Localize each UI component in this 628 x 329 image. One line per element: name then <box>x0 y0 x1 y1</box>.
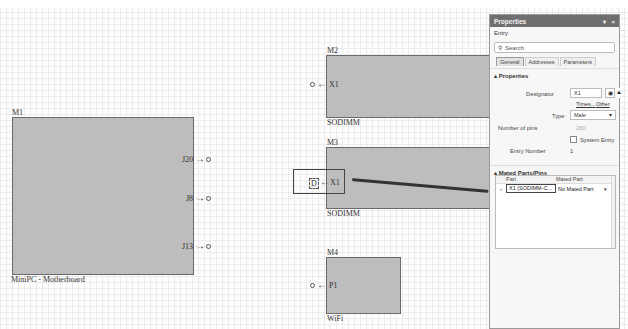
pin-terminal-icon[interactable] <box>206 196 211 201</box>
eye-icon[interactable]: ◉ <box>605 88 615 98</box>
tab-bar: General Addresses Parameters <box>496 57 615 66</box>
column-header-mated-part[interactable]: Mated Part <box>550 176 600 183</box>
module-name: MiniPC - Motherboard <box>11 275 85 284</box>
section-title: Properties <box>499 73 529 79</box>
module-name: WiFi <box>327 314 343 323</box>
module-designator: M1 <box>12 108 23 117</box>
tab-parameters[interactable]: Parameters <box>560 57 596 66</box>
entry-number-label: Entry Number <box>510 148 546 154</box>
section-properties-header[interactable]: ▴ Properties <box>490 68 619 82</box>
properties-panel: Properties ▾ × Entry ⚲ Search General Ad… <box>489 14 620 329</box>
pin-label[interactable]: J13 <box>182 242 193 251</box>
arrow-left-icon: ← <box>317 78 327 89</box>
canvas-top-margin <box>0 0 628 8</box>
tab-general[interactable]: General <box>496 57 524 66</box>
table-scrollbar[interactable] <box>611 176 615 248</box>
pin-label[interactable]: J8 <box>186 194 193 203</box>
ghost-pin-drag: D <box>309 178 319 189</box>
pin-panel-icon[interactable]: ▾ <box>603 19 606 25</box>
chevron-down-icon[interactable]: ▾ <box>604 186 607 192</box>
module-m1-motherboard[interactable] <box>12 117 194 275</box>
designator-input[interactable]: X1 <box>570 88 602 98</box>
num-pins-label: Number of pins <box>498 125 537 131</box>
tab-addresses[interactable]: Addresses <box>525 57 559 66</box>
type-select[interactable]: Male ▾ <box>570 110 616 120</box>
search-icon: ⚲ <box>498 44 502 51</box>
column-header-part[interactable]: Part <box>506 176 550 183</box>
num-pins-value: 260 <box>576 125 586 131</box>
mated-parts-table: Part Mated Part « X1 (SODIMM-C... No Mat… <box>495 175 616 249</box>
module-designator: M2 <box>327 46 338 55</box>
pin-terminal-icon[interactable] <box>310 283 315 288</box>
type-value: Male <box>574 112 586 118</box>
pin-terminal-icon[interactable] <box>310 82 315 87</box>
arrow-right-icon: → <box>195 192 205 203</box>
module-name: SODIMM <box>327 118 360 127</box>
pin-label[interactable]: J20 <box>182 155 193 164</box>
panel-titlebar[interactable]: Properties ▾ × <box>490 15 619 27</box>
arrow-right-icon: → <box>195 240 205 251</box>
lock-icon[interactable]: ▲ <box>616 88 620 98</box>
search-input[interactable]: ⚲ Search <box>494 42 615 53</box>
module-designator: M4 <box>327 248 338 257</box>
chevron-down-icon: ▾ <box>609 112 612 118</box>
arrow-left-icon: ← <box>317 279 327 290</box>
module-designator: M3 <box>327 138 338 147</box>
pin-label[interactable]: X1 <box>330 178 340 187</box>
panel-title: Properties <box>494 18 526 25</box>
pin-label[interactable]: X1 <box>329 80 339 89</box>
arrow-left-icon: ← <box>320 176 330 187</box>
table-header: Part Mated Part <box>496 176 615 184</box>
object-type: Entry <box>490 27 619 39</box>
table-row[interactable]: « X1 (SODIMM-C... No Mated Part ▾ <box>496 184 615 193</box>
expand-icon[interactable]: « <box>496 186 506 192</box>
arrow-right-icon: → <box>195 153 205 164</box>
times-link[interactable]: Times... <box>576 101 595 107</box>
entry-number-value: 1 <box>570 148 573 154</box>
system-entry-checkbox[interactable] <box>570 136 577 143</box>
system-entry-label: System Entry <box>580 137 614 143</box>
designator-label: Designator <box>526 91 554 97</box>
other-link[interactable]: Other <box>596 101 610 107</box>
mated-part-cell[interactable]: No Mated Part <box>556 186 604 192</box>
type-label: Type <box>552 113 565 119</box>
pin-terminal-icon[interactable] <box>206 244 211 249</box>
search-placeholder: Search <box>505 45 524 51</box>
module-name: SODIMM <box>327 209 360 218</box>
pin-label[interactable]: P1 <box>329 281 337 290</box>
part-cell[interactable]: X1 (SODIMM-C... <box>506 184 556 193</box>
module-m2-sodimm[interactable] <box>326 55 496 118</box>
close-icon[interactable]: × <box>611 19 615 25</box>
pin-terminal-icon[interactable] <box>206 157 211 162</box>
